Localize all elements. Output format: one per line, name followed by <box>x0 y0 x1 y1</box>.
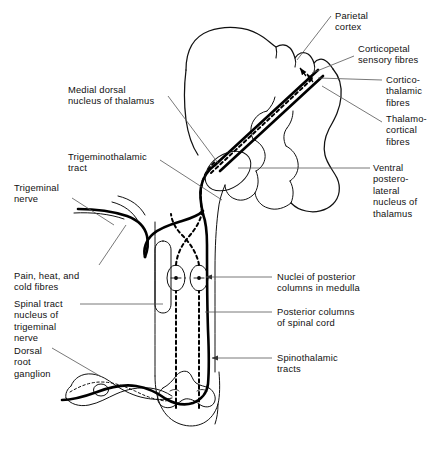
leader-dorsal-root-ganglion <box>52 348 100 376</box>
leader-corticopetal-sensory-fibres <box>312 56 354 73</box>
label-trigeminothalamic-tract: Trigeminothalamic tract <box>68 151 147 174</box>
leader-thalamo-cortical-fibres <box>322 86 382 122</box>
label-spinal-tract-nucleus: Spinal tract nucleus of trigeminal nerve <box>14 298 63 344</box>
label-trigeminal-nerve: Trigeminal nerve <box>14 182 59 205</box>
label-pain-heat-cold-fibres: Pain, heat, and cold fibres <box>14 270 79 293</box>
label-dorsal-root-ganglion: Dorsal root ganglion <box>14 345 51 379</box>
leader-cortico-thalamic-fibres <box>318 78 382 80</box>
trigeminothalamic-tract-solid <box>78 209 203 257</box>
label-parietal-cortex: Parietal cortex <box>335 10 368 33</box>
label-thalamo-cortical-fibres: Thalamo- cortical fibres <box>386 113 427 147</box>
label-nuclei-posterior-columns: Nuclei of posterior columns in medulla <box>277 271 360 294</box>
label-medial-dorsal-nucleus: Medial dorsal nucleus of thalamus <box>68 84 154 107</box>
label-posterior-columns-spinal-cord: Posterior columns of spinal cord <box>277 306 355 329</box>
leader-parietal-cortex <box>297 16 331 60</box>
spinal-trigeminal-nucleus <box>155 241 171 313</box>
label-cortico-thalamic-fibres: Cortico- thalamic fibres <box>386 74 422 108</box>
brainstem-and-cord-outline <box>155 185 225 426</box>
label-ventral-posterolateral-nucleus: Ventral postero- lateral nucleus of thal… <box>373 162 417 219</box>
leader-medial-dorsal-nucleus <box>168 96 218 163</box>
label-spinothalamic-tracts: Spinothalamic tracts <box>277 352 338 375</box>
leader-pain-heat-cold-fibres <box>99 225 126 265</box>
label-corticopetal-sensory-fibres: Corticopetal sensory fibres <box>358 43 418 66</box>
nuclei-posterior-columns <box>167 265 208 291</box>
sensory-pathway-diagram <box>0 0 438 458</box>
